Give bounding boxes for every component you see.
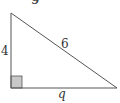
vertical-leg-label: 4 (1, 45, 9, 57)
hypotenuse-label: 6 (61, 38, 69, 50)
right-triangle-figure: 9 4 6 q (0, 0, 120, 103)
question-number: 9 (31, 0, 39, 6)
horizontal-leg-label: q (58, 88, 66, 100)
right-angle-marker (11, 76, 22, 88)
